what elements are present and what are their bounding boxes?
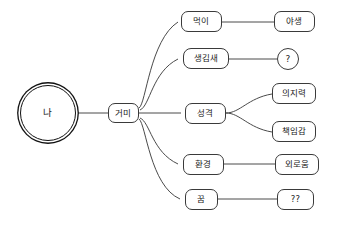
node-willpower-label: 의지력 xyxy=(282,89,307,98)
node-personality[interactable]: 성격 xyxy=(185,103,226,124)
node-appearance-unknown-label: ? xyxy=(286,55,291,64)
node-appearance[interactable]: 생김새 xyxy=(183,48,229,69)
node-dream[interactable]: 꿈 xyxy=(185,189,218,210)
node-wild-label: 야생 xyxy=(286,17,302,26)
node-food-label: 먹이 xyxy=(193,17,209,26)
edge-personality-to-willpower xyxy=(226,94,272,113)
node-loneliness[interactable]: 외로움 xyxy=(275,154,319,175)
node-food[interactable]: 먹이 xyxy=(181,11,222,32)
node-environment[interactable]: 환경 xyxy=(183,154,224,175)
mind-map-canvas: 나 거미 먹이 야생 생김새 ? 성격 의지력 책임감 환경 외로움 꿈 ?? xyxy=(0,0,341,226)
node-dream-label: 꿈 xyxy=(197,195,205,204)
node-spider-label: 거미 xyxy=(115,109,131,118)
edge-spider-to-dream xyxy=(139,119,180,199)
node-willpower[interactable]: 의지력 xyxy=(272,83,316,104)
edge-spider-to-appearance xyxy=(140,59,178,110)
node-dream-unknown[interactable]: ?? xyxy=(277,189,314,210)
node-responsibility-label: 책임감 xyxy=(282,127,307,136)
node-spider[interactable]: 거미 xyxy=(108,103,139,123)
node-appearance-unknown[interactable]: ? xyxy=(277,48,299,70)
edge-spider-to-environment xyxy=(140,118,178,164)
node-root-me-label: 나 xyxy=(43,108,52,118)
node-root-me[interactable]: 나 xyxy=(20,85,76,141)
edge-personality-to-responsibility xyxy=(226,113,272,132)
node-personality-label: 성격 xyxy=(197,109,213,118)
node-wild[interactable]: 야생 xyxy=(274,11,315,32)
node-environment-label: 환경 xyxy=(195,160,211,169)
node-responsibility[interactable]: 책임감 xyxy=(272,121,316,142)
node-dream-unknown-label: ?? xyxy=(291,195,300,204)
node-loneliness-label: 외로움 xyxy=(285,160,310,169)
edge-spider-to-food xyxy=(139,22,178,108)
node-appearance-label: 생김새 xyxy=(194,54,219,63)
